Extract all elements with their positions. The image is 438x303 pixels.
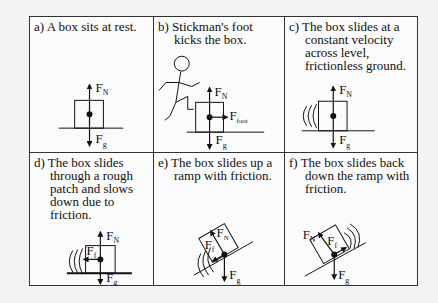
svg-text:Ff: Ff — [327, 234, 337, 250]
svg-text:FN: FN — [303, 228, 316, 244]
svg-text:FN: FN — [106, 229, 119, 245]
panel-d: d) The box slides through a rough patch … — [30, 153, 154, 285]
motion-lines-icon — [303, 104, 316, 128]
panel-c: c) The box slides at a constant velocity… — [285, 17, 417, 153]
panel-f-diagram: FN Fg Ff — [285, 153, 417, 285]
svg-text:Fg: Fg — [339, 133, 350, 150]
panel-a-diagram: FN Fg — [30, 17, 153, 152]
friction-force-arrow — [213, 254, 225, 261]
panel-d-diagram: FN Fg Ff — [30, 153, 153, 285]
panel-a: a) A box sits at rest. FN Fg — [30, 17, 154, 153]
free-body-diagram-grid: a) A box sits at rest. FN Fg b) Stickman… — [29, 16, 418, 286]
svg-text:FN: FN — [339, 83, 352, 99]
svg-text:Ff: Ff — [87, 244, 97, 260]
svg-text:Ff: Ff — [205, 238, 215, 254]
stickman-figure — [159, 56, 200, 120]
panel-f: f) The box slides back down the ramp wit… — [285, 153, 417, 285]
svg-text:FN: FN — [95, 81, 108, 97]
svg-text:Fg: Fg — [338, 268, 349, 285]
svg-text:Fg: Fg — [229, 268, 240, 285]
motion-lines-icon — [69, 249, 82, 275]
panel-e: e) The box slides up a ramp with frictio… — [154, 153, 285, 285]
svg-text:FN: FN — [215, 85, 228, 101]
svg-text:Ffoot: Ffoot — [229, 109, 247, 125]
panel-b: b) Stickman's foot kicks the box. FN — [154, 17, 285, 153]
svg-text:Fg: Fg — [95, 132, 106, 149]
svg-text:Fg: Fg — [216, 133, 227, 150]
panel-b-diagram: FN Fg Ffoot — [154, 17, 284, 152]
panel-c-diagram: FN Fg — [285, 17, 417, 152]
panel-e-diagram: FN Fg Ff — [154, 153, 284, 285]
